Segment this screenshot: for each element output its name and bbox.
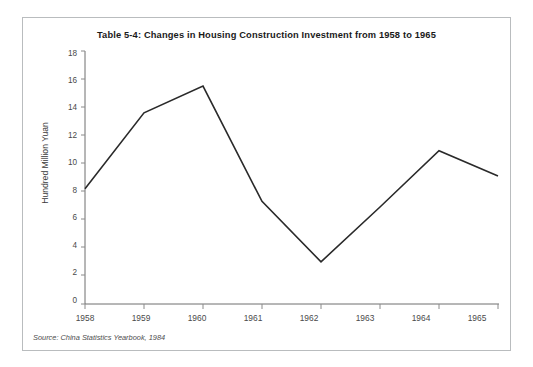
- x-tick-label-1964: 1964: [399, 313, 443, 323]
- x-tick-label-1961: 1961: [231, 313, 275, 323]
- y-tick-label-18: 18: [55, 49, 77, 58]
- y-axis-title: Hundred Million Yuan: [40, 93, 50, 233]
- y-tick-label-0: 0: [55, 296, 77, 305]
- y-tick-label-8: 8: [55, 186, 77, 195]
- data-series-line: [85, 86, 498, 262]
- x-tick-marks: [85, 304, 498, 309]
- x-tick-label-1958: 1958: [63, 313, 107, 323]
- source-note: Source: China Statistics Yearbook, 1984: [33, 333, 165, 342]
- x-tick-label-1959: 1959: [119, 313, 163, 323]
- y-tick-label-4: 4: [55, 241, 77, 250]
- y-tick-label-14: 14: [55, 103, 77, 112]
- plot-area: Hundred Million Yuan 18 16 14 12 10 8 6 …: [23, 18, 512, 352]
- x-tick-label-1963: 1963: [343, 313, 387, 323]
- figure-frame: Table 5-4: Changes in Housing Constructi…: [22, 17, 511, 351]
- x-tick-label-1962: 1962: [287, 313, 331, 323]
- chart-canvas: [23, 18, 512, 352]
- x-tick-label-1965: 1965: [455, 313, 499, 323]
- y-tick-marks: [81, 51, 85, 304]
- y-tick-label-10: 10: [55, 158, 77, 167]
- y-tick-label-2: 2: [55, 268, 77, 277]
- y-tick-label-16: 16: [55, 76, 77, 85]
- y-tick-label-12: 12: [55, 131, 77, 140]
- x-tick-label-1960: 1960: [175, 313, 219, 323]
- y-tick-label-6: 6: [55, 213, 77, 222]
